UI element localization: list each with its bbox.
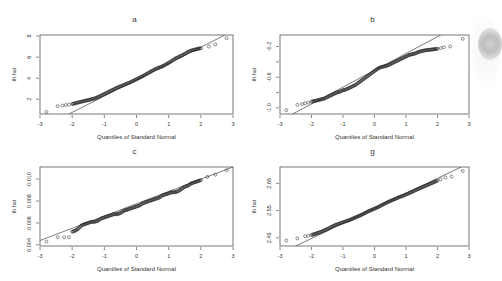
scan-blot xyxy=(478,28,502,60)
qq-point xyxy=(304,102,307,105)
qq-point xyxy=(307,234,310,237)
panel-title: c xyxy=(133,147,137,156)
y-axis-label: th.hat xyxy=(251,67,257,81)
x-axis-label: Quantiles of Standard Normal xyxy=(335,266,414,272)
x-tick-label: 1 xyxy=(167,253,170,259)
x-tick-label: -1 xyxy=(341,253,346,259)
x-tick-label: 3 xyxy=(231,121,234,127)
y-tick-label: -0.6 xyxy=(266,72,272,81)
panel-c: c-3-2-10123Quantiles of Standard Normal0… xyxy=(11,147,235,272)
qq-point xyxy=(207,45,210,48)
qq-point xyxy=(304,235,307,238)
qq-point xyxy=(444,176,447,179)
x-axis-label: Quantiles of Standard Normal xyxy=(97,134,176,140)
qq-point xyxy=(285,239,288,242)
qq-point xyxy=(214,43,217,46)
qq-point xyxy=(56,236,59,239)
plot-frame xyxy=(40,35,233,114)
x-tick-label: -2 xyxy=(70,121,75,127)
y-tick-label: 6 xyxy=(26,56,32,59)
x-tick-label: 2 xyxy=(436,253,439,259)
y-tick-label: 0.010 xyxy=(26,172,32,186)
x-tick-label: -1 xyxy=(102,121,107,127)
x-tick-label: 2 xyxy=(199,121,202,127)
y-tick-label: 4 xyxy=(26,77,32,80)
x-tick-label: 0 xyxy=(373,121,376,127)
qq-point xyxy=(63,236,66,239)
qq-point xyxy=(296,103,299,106)
qq-point xyxy=(442,46,445,49)
qq-point xyxy=(225,37,228,40)
y-tick-label: 2.55 xyxy=(266,205,272,216)
x-tick-label: -3 xyxy=(278,121,283,127)
panel-title: g xyxy=(370,147,374,156)
y-tick-label: -0.2 xyxy=(266,42,272,51)
x-tick-label: 0 xyxy=(135,121,138,127)
panel-b: b-3-2-10123Quantiles of Standard Normal-… xyxy=(251,15,471,140)
x-tick-label: 3 xyxy=(467,121,470,127)
panel-g: g-3-2-10123Quantiles of Standard Normal2… xyxy=(251,147,471,272)
y-tick-label: 2.65 xyxy=(266,178,272,189)
y-tick-label: 0.006 xyxy=(26,216,32,230)
qq-points xyxy=(285,170,464,242)
x-tick-label: 2 xyxy=(199,253,202,259)
qq-points xyxy=(45,37,228,114)
qq-point xyxy=(307,101,310,104)
x-tick-label: 0 xyxy=(135,253,138,259)
qq-point xyxy=(449,45,452,48)
y-tick-label: 8 xyxy=(26,35,32,38)
y-axis-label: th.hat xyxy=(251,199,257,213)
qq-point xyxy=(67,236,70,239)
qq-points xyxy=(45,169,228,243)
qq-point xyxy=(64,104,67,107)
x-tick-label: 1 xyxy=(404,121,407,127)
x-tick-label: 1 xyxy=(167,121,170,127)
y-axis-label: th.hat xyxy=(11,199,17,213)
qq-point xyxy=(56,105,59,108)
qq-reference-line xyxy=(40,167,233,241)
qq-point xyxy=(45,110,48,113)
qq-point xyxy=(439,178,442,181)
panel-title: b xyxy=(370,15,375,24)
panel-a: a-3-2-10123Quantiles of Standard Normal2… xyxy=(11,15,235,140)
qq-point xyxy=(61,104,64,107)
x-tick-label: -3 xyxy=(38,121,43,127)
x-tick-label: -2 xyxy=(309,253,314,259)
plot-frame xyxy=(280,35,469,114)
x-tick-label: -1 xyxy=(341,121,346,127)
y-tick-label: 0.004 xyxy=(26,238,32,252)
qq-points xyxy=(285,37,464,111)
y-axis-label: th.hat xyxy=(11,67,17,81)
x-tick-label: -3 xyxy=(38,253,43,259)
x-tick-label: 3 xyxy=(231,253,234,259)
qq-point xyxy=(301,103,304,106)
qq-point xyxy=(45,240,48,243)
qq-point xyxy=(296,237,299,240)
x-tick-label: -2 xyxy=(70,253,75,259)
y-tick-label: -1.0 xyxy=(266,103,272,112)
x-tick-label: -2 xyxy=(309,121,314,127)
x-axis-label: Quantiles of Standard Normal xyxy=(335,134,414,140)
qq-point xyxy=(285,109,288,112)
x-tick-label: -3 xyxy=(278,253,283,259)
y-tick-label: 0.008 xyxy=(26,194,32,208)
x-tick-label: 1 xyxy=(404,253,407,259)
qq-point xyxy=(67,103,70,106)
y-tick-label: 2 xyxy=(26,98,32,101)
x-axis-label: Quantiles of Standard Normal xyxy=(97,266,176,272)
x-tick-label: -1 xyxy=(102,253,107,259)
y-tick-label: 2.45 xyxy=(266,232,272,243)
qq-point xyxy=(461,37,464,40)
x-tick-label: 0 xyxy=(373,253,376,259)
panel-title: a xyxy=(132,15,137,24)
qq-point xyxy=(450,175,453,178)
qq-point xyxy=(439,47,442,50)
qq-point xyxy=(461,170,464,173)
x-tick-label: 3 xyxy=(467,253,470,259)
x-tick-label: 2 xyxy=(436,121,439,127)
